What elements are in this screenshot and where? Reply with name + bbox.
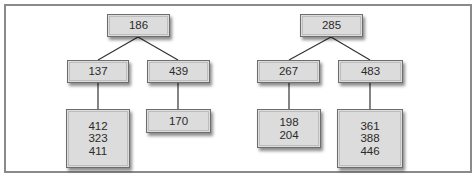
node-value: 439 xyxy=(169,65,188,78)
node-value: 323 xyxy=(88,132,107,145)
node-value: 170 xyxy=(169,115,188,128)
node-value: 285 xyxy=(322,19,341,32)
node-value: 388 xyxy=(360,132,379,145)
node-value: 446 xyxy=(360,145,379,158)
tree1-left-leaf-node: 412 323 411 xyxy=(66,109,130,168)
node-value: 411 xyxy=(89,145,107,158)
node-value: 198 xyxy=(279,116,298,129)
tree1-right-child-node: 439 xyxy=(147,60,210,83)
tree1-right-leaf-node: 170 xyxy=(146,109,211,133)
node-value: 267 xyxy=(279,65,298,78)
tree2-right-child-node: 483 xyxy=(338,60,403,83)
node-value: 204 xyxy=(279,129,298,142)
node-value: 137 xyxy=(88,65,107,78)
tree1-left-child-node: 137 xyxy=(67,60,129,83)
tree1-root-node: 186 xyxy=(107,14,170,37)
edge-186-439 xyxy=(138,37,178,60)
node-value: 412 xyxy=(88,120,107,133)
tree2-right-leaf-node: 361 388 446 xyxy=(337,109,403,168)
tree2-left-child-node: 267 xyxy=(257,60,320,83)
tree2-left-leaf-node: 198 204 xyxy=(257,109,321,148)
node-value: 186 xyxy=(129,19,148,32)
edge-285-483 xyxy=(331,37,370,60)
edge-186-137 xyxy=(98,37,138,60)
node-value: 361 xyxy=(360,120,379,133)
tree2-root-node: 285 xyxy=(300,14,363,37)
edge-285-267 xyxy=(289,37,331,60)
node-value: 483 xyxy=(361,65,380,78)
